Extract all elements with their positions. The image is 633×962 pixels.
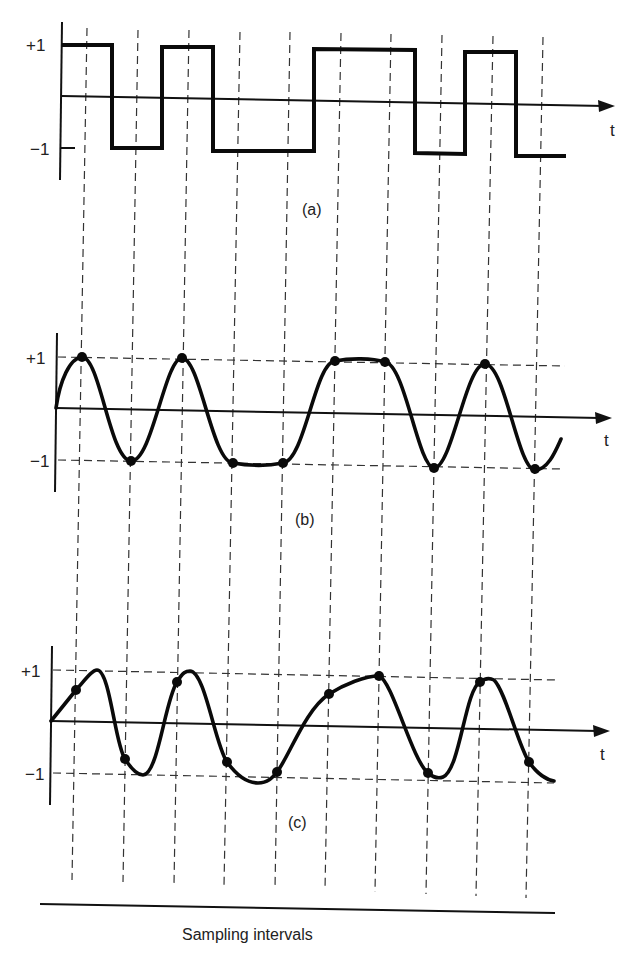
time-axis-a [62, 96, 605, 106]
label-plus-one-c: +1 [21, 662, 40, 681]
panel-a: +1 −1 t (a) [26, 22, 615, 218]
label-plus-one-a: +1 [26, 36, 45, 55]
sampling-baseline [40, 904, 555, 913]
y-axis-c [50, 646, 52, 805]
label-minus-one-b: −1 [30, 452, 49, 471]
sampling-grid-lines [72, 28, 543, 898]
caption-a: (a) [302, 201, 322, 218]
caption-c: (c) [288, 814, 307, 831]
caption-b: (b) [295, 511, 315, 528]
arrow-icon [598, 100, 615, 112]
arrow-icon [593, 725, 610, 737]
label-minus-one-a: −1 [30, 140, 49, 159]
label-t-a: t [610, 121, 615, 140]
label-plus-one-b: +1 [26, 349, 45, 368]
panel-c: +1 −1 t (c) [21, 646, 610, 831]
arrow-icon [595, 412, 612, 424]
sampling-intervals-label: Sampling intervals [182, 926, 313, 943]
y-axis-a [60, 22, 62, 180]
time-axis-b [56, 408, 600, 418]
panel-b: +1 −1 t (b) [26, 333, 612, 528]
label-t-c: t [600, 745, 605, 764]
y-axis-b [55, 333, 57, 492]
label-minus-one-c: −1 [25, 765, 44, 784]
label-t-b: t [604, 431, 609, 450]
sampling-diagram: +1 −1 t (a) +1 −1 t (b) [0, 0, 633, 962]
